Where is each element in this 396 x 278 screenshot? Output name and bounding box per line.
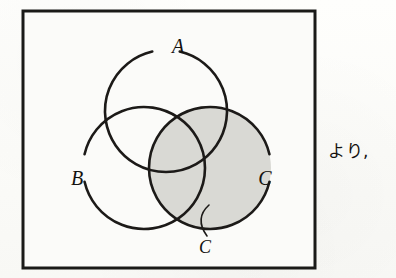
callout-label-c: C <box>199 237 212 257</box>
circle-label-a: A <box>170 35 185 57</box>
side-note-text: より, <box>328 143 369 160</box>
circle-label-c: C <box>258 167 272 189</box>
venn-diagram-canvas: A B C C <box>0 0 396 278</box>
venn-diagram-figure: A B C C より, <box>0 0 396 278</box>
circle-label-b: B <box>71 167 83 189</box>
